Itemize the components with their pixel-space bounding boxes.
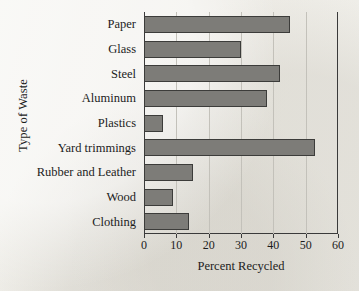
gridline: [273, 12, 274, 234]
x-axis-tick-label: 30: [228, 238, 254, 253]
plot-area: [144, 12, 338, 234]
bar: [144, 139, 315, 156]
category-label: Steel: [111, 67, 136, 81]
bar: [144, 90, 267, 107]
category-axis-labels: PaperGlassSteelAluminumPlasticsYard trim…: [0, 12, 140, 234]
bar: [144, 213, 189, 230]
category-label: Glass: [108, 42, 136, 56]
category-label: Paper: [108, 17, 136, 31]
category-label: Yard trimmings: [58, 141, 136, 155]
category-label: Wood: [106, 190, 136, 204]
category-label: Clothing: [92, 215, 136, 229]
plot-right-border: [337, 12, 338, 234]
bar-chart: Type of Waste PaperGlassSteelAluminumPla…: [0, 0, 359, 291]
x-axis-tick-label: 40: [260, 238, 286, 253]
bar: [144, 164, 193, 181]
x-axis-tick-label: 50: [293, 238, 319, 253]
category-label: Plastics: [98, 116, 136, 130]
category-label: Rubber and Leather: [37, 165, 136, 179]
x-axis-tick-label: 20: [196, 238, 222, 253]
bar: [144, 115, 163, 132]
gridline: [241, 12, 242, 234]
x-axis-tick-label: 0: [131, 238, 157, 253]
x-axis-title: Percent Recycled: [144, 259, 338, 274]
x-axis-tick-label: 10: [163, 238, 189, 253]
category-label: Aluminum: [82, 91, 136, 105]
gridline: [306, 12, 307, 234]
bar: [144, 41, 241, 58]
bar: [144, 16, 290, 33]
x-axis-tick-label: 60: [325, 238, 351, 253]
bar: [144, 65, 280, 82]
bar: [144, 189, 173, 206]
